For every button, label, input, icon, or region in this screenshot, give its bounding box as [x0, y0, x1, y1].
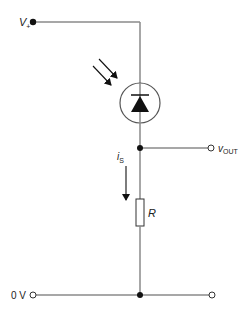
ground-junction-dot: [137, 292, 143, 298]
resistor-label: R: [148, 207, 156, 219]
circuit-svg: V+ vOUT iS R 0 V: [0, 0, 252, 316]
ground-left-terminal: [30, 292, 36, 298]
supply-label: V+: [19, 16, 30, 30]
ground-right-terminal: [209, 292, 215, 298]
light-arrows-icon: [93, 59, 117, 85]
supply-terminal-dot: [30, 19, 36, 25]
output-junction-dot: [137, 145, 143, 151]
current-label: iS: [117, 151, 124, 164]
supply-wire: [33, 22, 140, 83]
circuit-diagram: V+ vOUT iS R 0 V: [0, 0, 252, 316]
photodiode-symbol: [120, 83, 160, 123]
output-label: vOUT: [218, 143, 239, 155]
output-terminal: [208, 145, 214, 151]
resistor-symbol: [136, 199, 144, 226]
ground-label: 0 V: [11, 290, 26, 301]
